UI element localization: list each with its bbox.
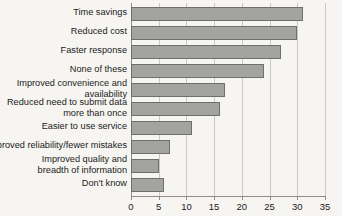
tick-20 — [242, 196, 243, 200]
x-tick-label: 25 — [255, 201, 285, 213]
bar-time-savings — [131, 7, 303, 21]
tick-30 — [297, 196, 298, 200]
bar-row — [131, 64, 264, 78]
tick-5 — [159, 196, 160, 200]
tick-15 — [214, 196, 215, 200]
bar-row — [131, 45, 281, 59]
category-label: Reduced cost — [0, 26, 127, 37]
x-tick-label: 20 — [227, 201, 257, 213]
category-label: Easier to use service — [0, 121, 127, 132]
category-label: Improved convenience and availability — [0, 78, 127, 99]
plot-area — [131, 3, 325, 196]
x-tick-label: 35 — [310, 201, 340, 213]
x-tick-label: 0 — [116, 201, 146, 213]
bar-improved-reliability — [131, 140, 170, 154]
bar-row — [131, 159, 159, 173]
gridline-30 — [297, 3, 298, 196]
category-label: Time savings — [0, 7, 127, 18]
category-label: Improved reliability/fewer mistakes — [0, 140, 127, 151]
x-tick-label: 15 — [199, 201, 229, 213]
gridline-35 — [325, 3, 326, 196]
category-label: None of these — [0, 64, 127, 75]
category-label: Improved quality and breadth of informat… — [0, 154, 127, 175]
category-label: Don't know — [0, 178, 127, 189]
bar-row — [131, 26, 297, 40]
bar-row — [131, 140, 170, 154]
bar-row — [131, 178, 164, 192]
bar-reduced-need-submit — [131, 102, 220, 116]
tick-25 — [270, 196, 271, 200]
bar-row — [131, 102, 220, 116]
tick-10 — [186, 196, 187, 200]
bar-none-of-these — [131, 64, 264, 78]
tick-0 — [131, 196, 132, 200]
bar-easier-to-use — [131, 121, 192, 135]
bar-dont-know — [131, 178, 164, 192]
bar-row — [131, 121, 192, 135]
bar-row — [131, 83, 225, 97]
bar-faster-response — [131, 45, 281, 59]
bar-row — [131, 7, 303, 21]
bar-reduced-cost — [131, 26, 297, 40]
category-label: Faster response — [0, 45, 127, 56]
bar-improved-convenience — [131, 83, 225, 97]
category-label: Reduced need to submit data more than on… — [0, 97, 127, 118]
x-tick-label: 5 — [144, 201, 174, 213]
tick-35 — [325, 196, 326, 200]
bar-chart: Time savings Reduced cost Faster respons… — [0, 0, 342, 216]
bar-improved-quality — [131, 159, 159, 173]
x-tick-label: 10 — [171, 201, 201, 213]
x-tick-label: 30 — [282, 201, 312, 213]
